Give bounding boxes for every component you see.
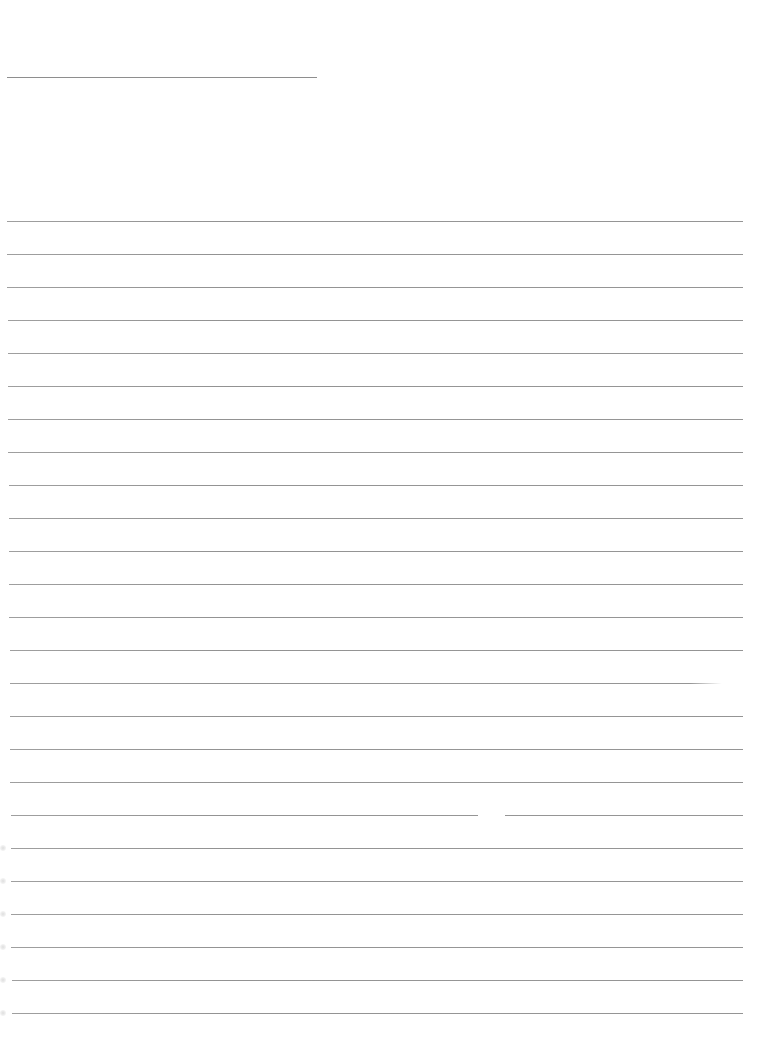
ruled-line <box>9 551 743 552</box>
ruled-line <box>8 452 743 453</box>
ruled-line <box>9 485 743 486</box>
ruled-line <box>7 221 743 222</box>
scan-edge-shadow <box>0 845 6 851</box>
ruled-line <box>8 320 743 321</box>
scan-edge-shadow <box>0 1010 6 1016</box>
ruled-line <box>10 749 743 750</box>
scan-artifact <box>690 682 743 685</box>
ruled-line <box>12 980 743 981</box>
ruled-line <box>10 716 743 717</box>
ruled-line <box>11 947 743 948</box>
ruled-line <box>11 914 743 915</box>
ruled-line <box>8 386 743 387</box>
ruled-line <box>9 518 743 519</box>
ruled-line <box>10 650 743 651</box>
lined-page <box>0 0 771 1050</box>
scan-artifact <box>478 814 505 817</box>
ruled-line <box>8 419 743 420</box>
ruled-line <box>7 254 743 255</box>
scan-edge-shadow <box>0 944 6 950</box>
ruled-line <box>9 617 743 618</box>
ruled-line <box>10 683 743 684</box>
ruled-line <box>10 782 743 783</box>
header-line <box>7 77 317 78</box>
ruled-line <box>11 848 743 849</box>
ruled-line <box>8 353 743 354</box>
scan-edge-shadow <box>0 878 6 884</box>
scan-edge-shadow <box>0 911 6 917</box>
ruled-line <box>9 584 743 585</box>
ruled-line <box>11 881 743 882</box>
ruled-line <box>7 287 743 288</box>
ruled-line <box>11 815 743 816</box>
scan-edge-shadow <box>0 977 6 983</box>
ruled-line <box>12 1013 743 1014</box>
